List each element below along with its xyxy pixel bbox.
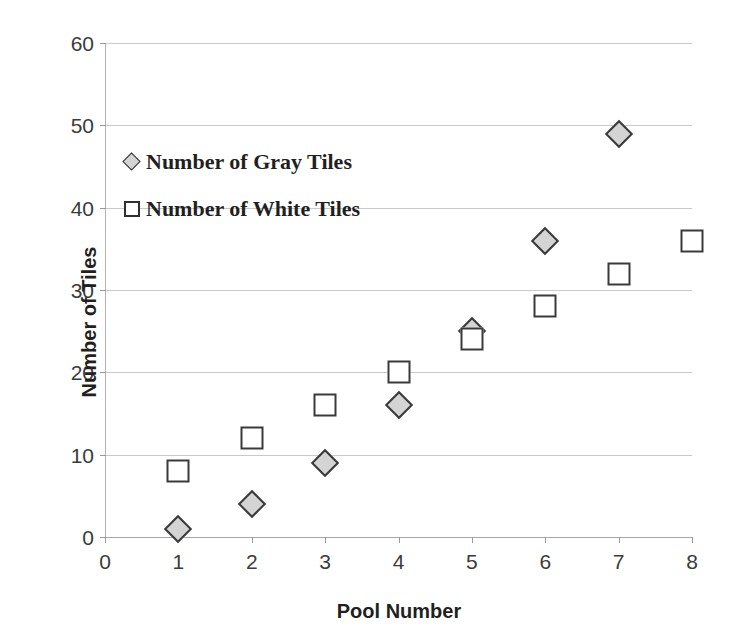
- square-marker-icon: [681, 229, 704, 252]
- y-tick-label-0: 0: [82, 527, 94, 548]
- legend-item-white-tiles[interactable]: Number of White Tiles: [122, 192, 360, 226]
- x-tick-mark-2: [252, 537, 253, 543]
- y-tick-label-40: 40: [71, 197, 94, 218]
- square-marker-icon: [534, 295, 557, 318]
- y-tick-mark-20: [100, 372, 106, 373]
- x-tick-label-1: 1: [173, 551, 185, 572]
- y-axis-title: Number of Tiles: [78, 247, 101, 398]
- plot-area: 0102030405060012345678: [105, 43, 692, 537]
- y-tick-mark-40: [100, 208, 106, 209]
- square-marker-icon: [314, 394, 337, 417]
- y-tick-mark-60: [100, 43, 106, 44]
- chart-legend: Number of Gray TilesNumber of White Tile…: [122, 145, 360, 239]
- square-marker-icon: [167, 460, 190, 483]
- diamond-marker-icon: [122, 152, 140, 170]
- square-marker-icon: [124, 201, 140, 217]
- data-point: [314, 394, 337, 417]
- x-tick-mark-4: [399, 537, 400, 543]
- y-tick-mark-30: [100, 290, 106, 291]
- data-point: [534, 295, 557, 318]
- x-tick-mark-0: [105, 537, 106, 543]
- x-tick-label-3: 3: [319, 551, 331, 572]
- x-tick-mark-6: [545, 537, 546, 543]
- legend-swatch: [122, 152, 142, 172]
- x-tick-label-7: 7: [613, 551, 625, 572]
- y-tick-mark-10: [100, 455, 106, 456]
- x-tick-mark-8: [692, 537, 693, 543]
- gridline-y-50: [105, 125, 692, 126]
- square-marker-icon: [460, 328, 483, 351]
- diamond-marker-icon: [238, 490, 266, 518]
- x-tick-mark-7: [619, 537, 620, 543]
- diamond-marker-icon: [164, 515, 192, 543]
- x-tick-mark-5: [472, 537, 473, 543]
- x-tick-mark-3: [325, 537, 326, 543]
- x-tick-label-0: 0: [99, 551, 111, 572]
- y-tick-label-60: 60: [71, 33, 94, 54]
- data-point: [460, 328, 483, 351]
- data-point: [240, 427, 263, 450]
- square-marker-icon: [240, 427, 263, 450]
- legend-swatch: [122, 199, 142, 219]
- x-tick-label-4: 4: [393, 551, 405, 572]
- data-point: [167, 460, 190, 483]
- x-tick-label-2: 2: [246, 551, 258, 572]
- gridline-y-60: [105, 43, 692, 44]
- x-tick-label-6: 6: [539, 551, 551, 572]
- gridline-y-30: [105, 290, 692, 291]
- legend-item-label: Number of White Tiles: [146, 198, 360, 220]
- diamond-marker-icon: [384, 391, 412, 419]
- data-point: [681, 229, 704, 252]
- x-tick-label-5: 5: [466, 551, 478, 572]
- data-point: [535, 231, 555, 251]
- diamond-marker-icon: [604, 119, 632, 147]
- x-axis-title: Pool Number: [105, 600, 693, 623]
- scatter-chart: 0102030405060012345678 Number of Tiles P…: [0, 0, 741, 644]
- data-point: [607, 262, 630, 285]
- data-point: [609, 124, 629, 144]
- legend-item-label: Number of Gray Tiles: [146, 151, 352, 173]
- diamond-marker-icon: [531, 226, 559, 254]
- y-tick-mark-50: [100, 125, 106, 126]
- data-point: [315, 453, 335, 473]
- y-tick-label-10: 10: [71, 444, 94, 465]
- y-tick-label-50: 50: [71, 115, 94, 136]
- data-point: [242, 494, 262, 514]
- data-point: [168, 519, 188, 539]
- square-marker-icon: [387, 361, 410, 384]
- data-point: [389, 395, 409, 415]
- legend-item-gray-tiles[interactable]: Number of Gray Tiles: [122, 145, 360, 179]
- square-marker-icon: [607, 262, 630, 285]
- data-point: [387, 361, 410, 384]
- gridline-y-10: [105, 455, 692, 456]
- diamond-marker-icon: [311, 449, 339, 477]
- x-tick-label-8: 8: [686, 551, 698, 572]
